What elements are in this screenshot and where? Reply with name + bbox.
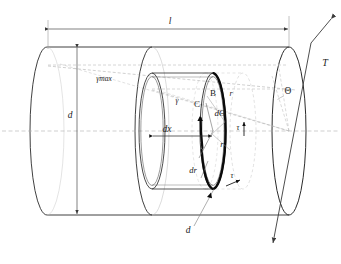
theta-ray-undeformed xyxy=(278,62,289,131)
label-point-b: B xyxy=(210,88,216,98)
torsion-diagram-canvas: l d γmax γ B C r dΘ dx r dr τ τ Θ T d xyxy=(0,0,341,264)
label-tau-lower: τ xyxy=(231,171,235,180)
shear-stress-bold-arc-near xyxy=(202,150,213,189)
label-length-l: l xyxy=(169,16,172,26)
label-torque-t: T xyxy=(322,57,329,68)
label-gamma: γ xyxy=(176,96,180,105)
gamma-max-construction xyxy=(48,64,296,131)
label-dr: dr xyxy=(189,165,197,175)
angle-of-twist-construction xyxy=(272,62,289,131)
label-diameter-d: d xyxy=(68,110,73,120)
label-dx: dx xyxy=(163,124,173,134)
label-tau-upper: τ xyxy=(237,123,241,132)
dx-ring-arrowhead-bottom xyxy=(207,193,212,199)
label-diameter-element: d xyxy=(186,225,191,235)
label-gamma-max: γmax xyxy=(96,74,112,83)
label-point-c: C xyxy=(194,99,200,109)
cut-section-near-arc xyxy=(135,47,152,215)
torsion-diagram-figure: l d γmax γ B C r dΘ dx r dr τ τ Θ T d xyxy=(0,0,341,264)
tau-lower-arrow xyxy=(226,180,240,186)
label-d-theta: dΘ xyxy=(215,108,227,118)
label-theta: Θ xyxy=(285,86,292,96)
gamma-max-deformed-line xyxy=(48,66,296,90)
